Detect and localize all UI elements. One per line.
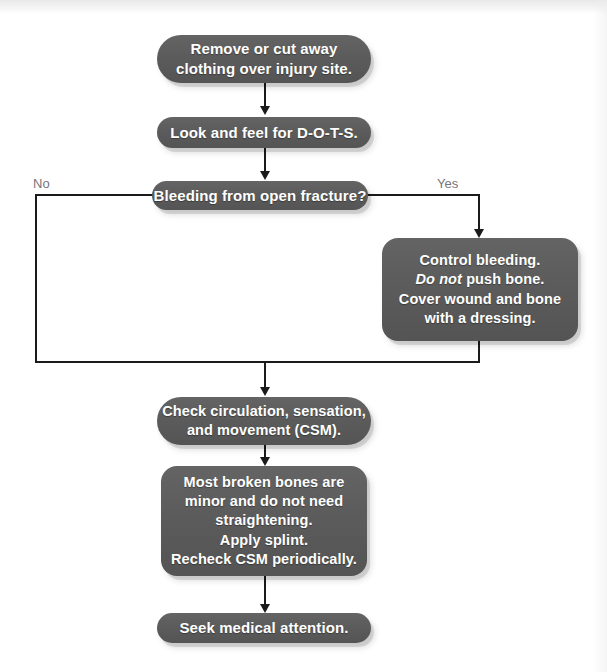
branch-label-yes: Yes bbox=[437, 176, 458, 191]
node-control-bleeding-line2: Do not push bone. bbox=[382, 270, 578, 289]
node-most-broken-bones[interactable]: Most broken bones are minor and do not n… bbox=[161, 466, 367, 576]
node-look-and-feel-dots[interactable]: Look and feel for D-O-T-S. bbox=[157, 117, 371, 148]
page-right-edge-band bbox=[593, 0, 607, 672]
connector-no-vertical bbox=[35, 194, 37, 363]
connector-yes-stub-right bbox=[366, 194, 480, 196]
node-most-broken-bones-line1: Most broken bones are bbox=[161, 473, 367, 492]
node-most-broken-bones-line2: minor and do not need bbox=[161, 492, 367, 511]
node-check-csm[interactable]: Check circulation, sensation, and moveme… bbox=[157, 397, 371, 445]
connector-merge-to-csm bbox=[264, 361, 266, 387]
node-control-bleeding-line2-rest: push bone. bbox=[462, 271, 544, 287]
node-seek-medical-attention[interactable]: Seek medical attention. bbox=[157, 613, 371, 643]
node-seek-medical-attention-text: Seek medical attention. bbox=[157, 618, 371, 638]
node-most-broken-bones-line4: Apply splint. bbox=[161, 531, 367, 550]
connector-most-to-seek bbox=[264, 576, 266, 604]
flowchart-canvas: No Yes Remove or cut away clothing over … bbox=[0, 0, 607, 672]
node-check-csm-line1: Check circulation, sensation, bbox=[157, 402, 371, 421]
node-remove-clothing-line2: clothing over injury site. bbox=[157, 59, 371, 79]
node-bleeding-decision-text: Bleeding from open fracture? bbox=[152, 186, 368, 206]
connector-control-to-merge bbox=[478, 340, 480, 363]
node-most-broken-bones-line3: straightening. bbox=[161, 511, 367, 530]
page-top-edge-band bbox=[0, 0, 607, 13]
connector-csm-to-most bbox=[264, 445, 266, 457]
node-most-broken-bones-text: Most broken bones are minor and do not n… bbox=[161, 473, 367, 569]
arrowhead-yes-to-control bbox=[474, 229, 484, 238]
node-remove-clothing-line1: Remove or cut away bbox=[157, 39, 371, 59]
node-control-bleeding[interactable]: Control bleeding. Do not push bone. Cove… bbox=[382, 238, 578, 341]
node-bleeding-decision[interactable]: Bleeding from open fracture? bbox=[152, 181, 368, 210]
node-remove-clothing-text: Remove or cut away clothing over injury … bbox=[157, 39, 371, 79]
node-bleeding-decision-line1: Bleeding from open fracture? bbox=[152, 186, 368, 206]
node-remove-clothing[interactable]: Remove or cut away clothing over injury … bbox=[157, 35, 371, 83]
arrowhead-dots-to-bleeding bbox=[260, 171, 270, 180]
node-control-bleeding-text: Control bleeding. Do not push bone. Cove… bbox=[382, 251, 578, 328]
arrowhead-csm-to-most bbox=[260, 457, 270, 466]
connector-yes-vertical bbox=[478, 194, 480, 229]
node-control-bleeding-emphasis: Do not bbox=[416, 271, 463, 287]
branch-label-no: No bbox=[33, 176, 50, 191]
arrowhead-remove-to-dots bbox=[260, 106, 270, 115]
node-check-csm-text: Check circulation, sensation, and moveme… bbox=[157, 402, 371, 441]
connector-no-stub-left bbox=[35, 194, 154, 196]
node-control-bleeding-line4: with a dressing. bbox=[382, 309, 578, 328]
connector-merge-horizontal bbox=[35, 361, 480, 363]
node-look-and-feel-dots-line1: Look and feel for D-O-T-S. bbox=[157, 123, 371, 143]
node-most-broken-bones-line5: Recheck CSM periodically. bbox=[161, 550, 367, 569]
connector-dots-to-bleeding bbox=[264, 148, 266, 171]
node-check-csm-line2: and movement (CSM). bbox=[157, 421, 371, 440]
connector-remove-to-dots bbox=[264, 83, 266, 106]
arrowhead-most-to-seek bbox=[260, 604, 270, 613]
node-look-and-feel-dots-text: Look and feel for D-O-T-S. bbox=[157, 123, 371, 143]
node-control-bleeding-line1: Control bleeding. bbox=[382, 251, 578, 270]
node-seek-medical-attention-line1: Seek medical attention. bbox=[157, 618, 371, 638]
arrowhead-merge-to-csm bbox=[260, 387, 270, 396]
node-control-bleeding-line3: Cover wound and bone bbox=[382, 290, 578, 309]
